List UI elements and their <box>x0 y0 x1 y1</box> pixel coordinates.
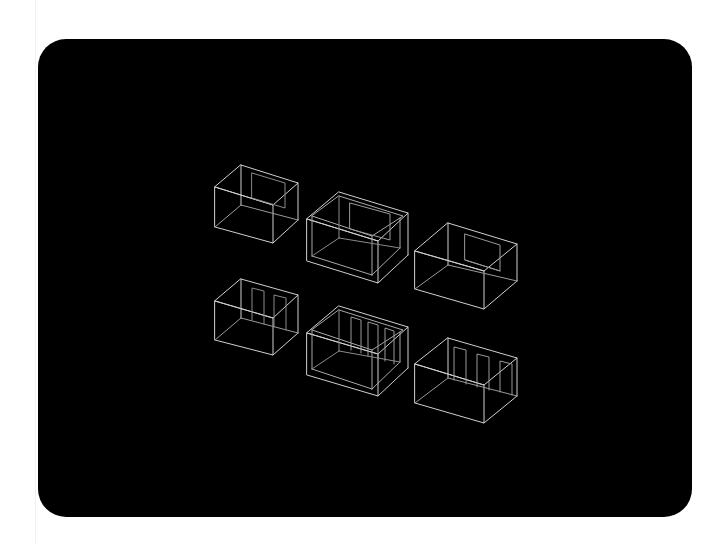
page <box>0 0 725 543</box>
room-4 <box>215 279 298 355</box>
window-icon <box>252 173 285 208</box>
wireframe-scene <box>0 0 725 543</box>
room-2 <box>307 192 408 283</box>
room-5 <box>307 306 408 396</box>
door-icon <box>454 347 466 384</box>
door-icon <box>500 361 512 395</box>
door-icon <box>274 295 286 330</box>
room-1 <box>215 165 298 243</box>
room-6 <box>415 338 517 423</box>
room-3 <box>415 223 517 309</box>
door-icon <box>252 288 264 324</box>
